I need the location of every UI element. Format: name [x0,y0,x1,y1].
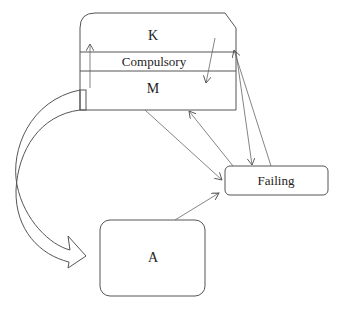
arrow-failing-to-m [189,111,233,166]
failing-label: Failing [258,173,295,188]
diagram-canvas: K Compulsory M Failing A [0,0,339,310]
section-k-label: K [148,28,158,43]
connector-tab [80,90,86,110]
arrow-k-to-m [206,38,215,83]
arrow-a-to-failing [175,193,219,220]
arrow-failing-to-compulsory [234,50,271,166]
curved-arrow-m-to-a [16,90,86,268]
section-m-label: M [147,81,160,96]
arrow-m-to-failing [145,110,222,180]
a-label: A [148,250,159,265]
section-compulsory-label: Compulsory [122,54,187,69]
arrow-compulsory-to-failing [236,52,252,165]
